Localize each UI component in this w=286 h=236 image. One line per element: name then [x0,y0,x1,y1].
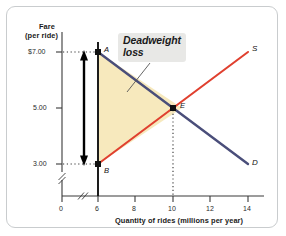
point-label-b: B [104,166,109,175]
y-axis-break-icon [59,173,66,180]
y-tick-label-3: 3.00 [33,160,47,167]
point-marker-e [170,105,176,111]
y-axis-title-line2: (per ride) [25,31,58,40]
x-tick-label-0: 0 [59,205,63,212]
x-axis-title: Quantity of rides (millions per year) [115,216,243,225]
x-tick-label-12: 12 [206,205,214,212]
deadweight-loss-region [98,52,182,164]
x-tick-label-14: 14 [243,205,251,212]
price-wedge-double-arrow [80,50,88,166]
point-label-e: E [180,101,185,110]
y-tick-label-5: 5.00 [33,104,47,111]
point-marker-a [95,49,101,55]
deadweight-loss-label-line1: Deadweight [123,35,181,47]
x-tick-label-10: 10 [168,205,176,212]
supply-curve-label: S [252,44,257,53]
point-label-a: A [104,45,109,54]
y-tick-label-7: $7.00 [28,48,46,55]
x-tick-label-6: 6 [95,205,99,212]
deadweight-loss-label-line2: loss [123,47,181,59]
deadweight-loss-callout: Deadweight loss [118,33,186,62]
point-marker-b [95,161,101,167]
figure-container: Fare (per ride) $7.00 5.00 3.00 0 6 8 10… [0,0,286,236]
x-tick-label-8: 8 [132,205,136,212]
demand-curve-label: D [252,158,258,167]
y-axis-title-line1: Fare [39,22,55,31]
